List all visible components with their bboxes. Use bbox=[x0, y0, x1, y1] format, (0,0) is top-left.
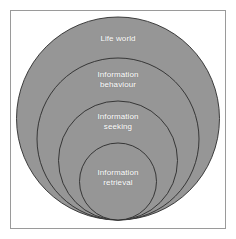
figure-root: Life world Information behaviour Informa… bbox=[0, 0, 236, 239]
nested-circles-diagram bbox=[0, 0, 236, 239]
circle-information-retrieval bbox=[80, 143, 157, 220]
